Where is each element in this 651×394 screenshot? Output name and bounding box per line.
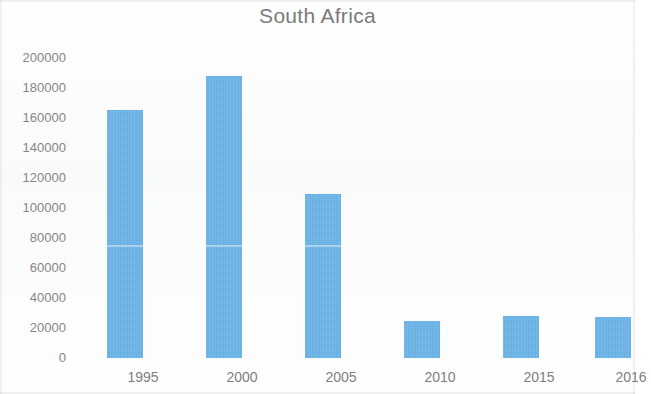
scan-seam-artifact (78, 245, 630, 247)
bar-2010[interactable] (404, 321, 440, 358)
x-axis-tick-label: 2015 (503, 368, 575, 386)
x-axis-tick-label: 2010 (404, 368, 476, 386)
x-axis-tick-label: 2000 (206, 368, 278, 386)
bar-2005[interactable] (305, 194, 341, 358)
x-axis: 1995 2000 2005 2010 2015 2016 (78, 368, 630, 392)
bar-1995[interactable] (107, 110, 143, 358)
bar-2016[interactable] (595, 317, 631, 358)
bar-2000[interactable] (206, 76, 242, 358)
x-axis-tick-label: 2016 (595, 368, 651, 386)
bar-2015[interactable] (503, 316, 539, 358)
x-axis-tick-label: 2005 (305, 368, 377, 386)
x-axis-tick-label: 1995 (107, 368, 179, 386)
